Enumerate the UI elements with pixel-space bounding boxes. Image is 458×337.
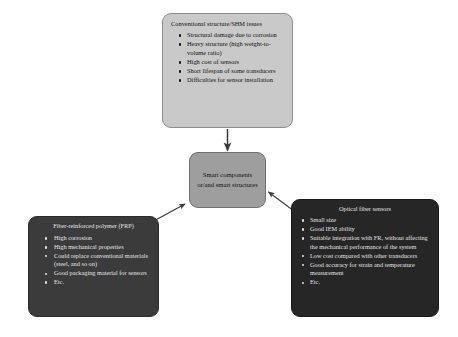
list-item: Good packaging material for sensors (54, 269, 150, 278)
node-conventional-title: Conventional structure/SHM issues (169, 20, 287, 28)
node-frp-list: High corrosion High mechanical propertie… (34, 234, 153, 287)
node-frp-title: Fiber-reinforced polymer (FRP) (34, 222, 153, 230)
list-item: Could replace conventional materials (st… (54, 252, 150, 270)
list-item: Etc. (310, 278, 431, 287)
list-item: Suitable integration with FR, without af… (310, 234, 431, 252)
list-item: Structural damage due to corrosion (187, 31, 285, 40)
node-optical-list: Small size Good IEM ability Suitable int… (296, 216, 434, 287)
node-conventional-list: Structural damage due to corrosion Heavy… (169, 31, 287, 85)
list-item: Difficulties for sensor installation (187, 76, 285, 85)
node-conventional-structure[interactable]: Conventional structure/SHM issues Struct… (162, 13, 293, 128)
list-item: Heavy structure (high weight-to-volume r… (187, 40, 285, 57)
diagram-canvas: Conventional structure/SHM issues Struct… (0, 0, 458, 337)
node-optical-fiber-sensors[interactable]: Optical fiber sensors Small size Good IE… (291, 199, 439, 317)
list-item: Good IEM ability (310, 225, 431, 234)
list-item: Good accuracy for strain and temperature… (310, 261, 431, 279)
node-optical-title: Optical fiber sensors (296, 205, 434, 213)
list-item: High cost of sensors (187, 58, 285, 67)
node-smart-components[interactable]: Smart components or/and smart structures (189, 152, 266, 208)
node-fiber-reinforced-polymer[interactable]: Fiber-reinforced polymer (FRP) High corr… (28, 216, 159, 317)
node-center-label: Smart components or/and smart structures (190, 170, 265, 189)
list-item: Etc. (54, 278, 150, 287)
list-item: Short lifespan of some transducers (187, 67, 285, 76)
list-item: High corrosion (54, 234, 150, 243)
list-item: Low cost compared with other transducers (310, 252, 431, 261)
list-item: High mechanical properties (54, 243, 150, 252)
list-item: Small size (310, 216, 431, 225)
